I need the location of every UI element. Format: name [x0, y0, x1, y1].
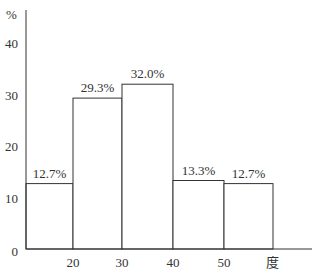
x-tick-label: 50 [218, 255, 231, 270]
histogram-chart: 12.7%29.3%32.0%13.3%12.7% 010203040 2030… [0, 0, 317, 273]
histogram-bar [122, 84, 173, 249]
histogram-bar [26, 184, 73, 249]
bar-value-label: 12.7% [232, 166, 266, 181]
y-tick-label: 20 [5, 139, 18, 154]
y-tick-label: 40 [5, 36, 18, 51]
y-axis-unit-label: % [6, 7, 17, 22]
bar-value-label: 12.7% [33, 166, 67, 181]
y-tick-labels: 010203040 [5, 36, 18, 259]
x-tick-label: 40 [167, 255, 180, 270]
y-tick-label: 10 [5, 191, 18, 206]
histogram-bar [224, 184, 273, 249]
x-tick-label: 30 [116, 255, 129, 270]
histogram-bar [173, 181, 224, 249]
bar-value-label: 13.3% [182, 163, 216, 178]
bar-value-label: 32.0% [131, 66, 165, 81]
histogram-bar [73, 98, 122, 249]
y-tick-label: 0 [12, 244, 19, 259]
x-tick-label: 20 [67, 255, 80, 270]
x-tick-labels: 20304050 [67, 255, 231, 270]
y-tick-label: 30 [5, 88, 18, 103]
x-axis-unit-label: 度 [266, 255, 279, 270]
bar-value-label: 29.3% [81, 80, 115, 95]
